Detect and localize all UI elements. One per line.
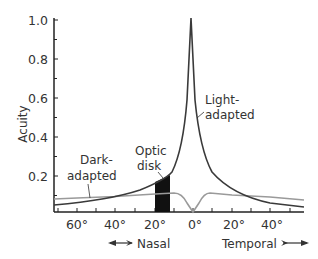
y-tick-0.8: 0.8: [28, 52, 48, 67]
temporal-arrow-icon: [281, 240, 309, 246]
x-tick-20-temporal: 20°: [223, 217, 245, 232]
dark-adapted-pointer: [88, 184, 90, 198]
light-adapted-label-line1: Light-: [205, 93, 239, 107]
x-tick-60-nasal: 60°: [66, 217, 88, 232]
y-tick-0.2: 0.2: [28, 169, 48, 184]
x-tick-0: 0°: [188, 217, 202, 232]
dark-adapted-label-line1: Dark-: [80, 153, 113, 167]
dark-adapted-label-line2: adapted: [67, 169, 117, 183]
x-tick-40-nasal: 40°: [104, 217, 126, 232]
y-tick-0.4: 0.4: [28, 130, 48, 145]
nasal-label: Nasal: [137, 237, 170, 251]
nasal-arrow-icon: [108, 240, 133, 246]
y-tick-1.0: 1.0: [28, 13, 48, 28]
optic-disk-label-line2: disk: [137, 159, 161, 173]
light-adapted-label-line2: adapted: [205, 108, 255, 122]
light-adapted-pointer: [197, 112, 204, 118]
optic-disk-label-line1: Optic: [135, 144, 167, 158]
x-tick-40-temporal: 40°: [261, 217, 283, 232]
acuity-chart: 1.0 0.8 0.6 0.4 0.2 Acuity 60° 40° 20° 0…: [0, 0, 318, 259]
y-tick-0.6: 0.6: [28, 91, 48, 106]
y-axis-label: Acuity: [16, 105, 30, 142]
temporal-label: Temporal: [221, 237, 277, 251]
x-tick-20-nasal: 20°: [144, 217, 166, 232]
